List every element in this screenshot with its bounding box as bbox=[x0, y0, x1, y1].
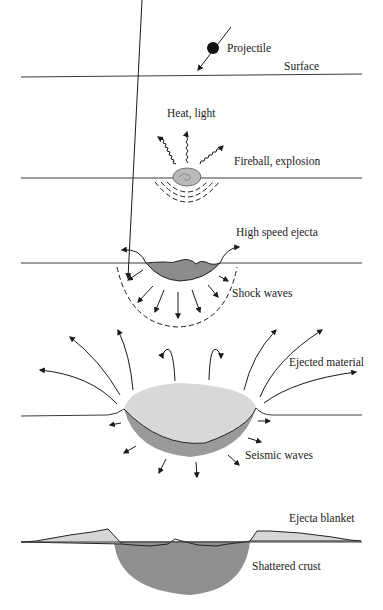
transient-crater bbox=[146, 260, 220, 282]
seismic-arrow bbox=[248, 438, 261, 442]
label-ejecta-blanket: Ejecta blanket bbox=[289, 512, 355, 525]
radiation-arrow-up bbox=[186, 132, 188, 163]
fireball-icon bbox=[173, 168, 201, 186]
shock-arrow bbox=[208, 285, 218, 297]
label-seismic-waves: Seismic waves bbox=[245, 449, 314, 461]
shock-arrow bbox=[192, 290, 200, 312]
ejecta-arrow bbox=[40, 370, 117, 404]
radiation-arrow-right bbox=[200, 146, 223, 164]
shock-arrow bbox=[128, 0, 142, 278]
shattered-crust-lens bbox=[114, 541, 250, 595]
ejecta-arrow bbox=[209, 349, 221, 380]
seismic-arrow bbox=[110, 423, 121, 425]
surface-line-left bbox=[21, 409, 124, 416]
panel-projectile: Projectile Surface bbox=[21, 27, 362, 77]
label-heat-light: Heat, light bbox=[167, 107, 216, 120]
seismic-arrow bbox=[159, 459, 166, 473]
panel-fireball: Heat, light Fireball, explosion bbox=[21, 107, 362, 202]
label-shock-waves: Shock waves bbox=[232, 287, 293, 299]
projectile-icon bbox=[207, 42, 219, 54]
shock-arrow bbox=[219, 276, 228, 281]
label-projectile: Projectile bbox=[227, 42, 271, 55]
panel-ejected-material: Ejected material Seismic waves bbox=[21, 330, 364, 477]
ejecta-arrow-right bbox=[220, 247, 239, 263]
ejecta-arrow bbox=[244, 330, 276, 390]
label-shattered-crust: Shattered crust bbox=[252, 560, 321, 572]
label-high-speed-ejecta: High speed ejecta bbox=[236, 226, 318, 239]
ejecta-arrow bbox=[163, 349, 175, 381]
ejecta-arrow bbox=[264, 372, 356, 403]
shock-arrow bbox=[128, 270, 143, 280]
label-fireball: Fireball, explosion bbox=[234, 155, 320, 168]
surface-line bbox=[21, 74, 362, 77]
seismic-arrow bbox=[228, 455, 239, 465]
seismic-arrow bbox=[124, 446, 136, 453]
label-surface: Surface bbox=[284, 60, 319, 72]
impact-crater-diagram: Projectile Surface Heat, light Fireball,… bbox=[0, 0, 383, 610]
panel-final-crater: Ejecta blanket Shattered crust bbox=[21, 512, 362, 595]
ejecta-blanket-right bbox=[250, 531, 361, 541]
label-ejected-material: Ejected material bbox=[289, 356, 364, 369]
shock-arrow bbox=[138, 286, 153, 302]
radiation-arrow-left bbox=[158, 137, 176, 164]
seismic-arrow bbox=[196, 462, 197, 477]
ejecta-arrow-left bbox=[122, 250, 146, 263]
ejecta-arrow bbox=[118, 330, 133, 390]
shock-arrow bbox=[155, 290, 164, 312]
surface-line-right bbox=[256, 408, 362, 415]
